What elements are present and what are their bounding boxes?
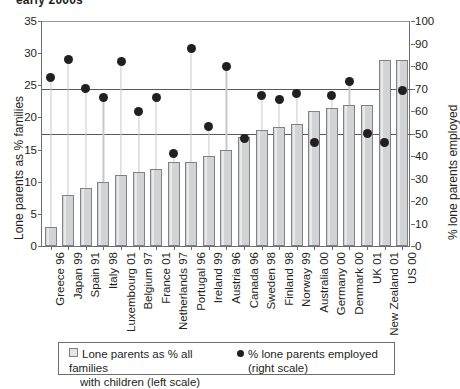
chart-category-column[interactable] <box>42 21 60 246</box>
bar[interactable] <box>273 127 285 246</box>
y-axis-right-tick-label: 0 <box>415 240 421 252</box>
data-point-marker[interactable] <box>169 149 178 158</box>
y-axis-right-tick-mark <box>411 156 415 157</box>
bar[interactable] <box>97 182 109 246</box>
bar[interactable] <box>62 195 74 246</box>
y-axis-right-tick-mark <box>411 201 415 202</box>
x-axis-tick-label: US 00 <box>406 252 418 284</box>
chart-category-column[interactable] <box>288 21 306 246</box>
legend-bar-label-line1: Lone parents as % all families <box>69 348 193 374</box>
data-point-marker[interactable] <box>81 84 90 93</box>
chart-category-column[interactable] <box>393 21 411 246</box>
x-axis-tick-label: Germany 00 <box>335 252 347 315</box>
chart-category-column[interactable] <box>77 21 95 246</box>
data-point-marker[interactable] <box>117 57 126 66</box>
x-axis-tick-label: Denmark 00 <box>353 252 365 315</box>
data-point-marker[interactable] <box>327 91 336 100</box>
y-axis-left-tick-label: 10 <box>24 176 37 188</box>
x-axis-tick-label: UK 01 <box>371 252 383 284</box>
chart-category-column[interactable] <box>235 21 253 246</box>
x-axis-tick-label: Finland 98 <box>283 252 295 306</box>
chart-legend: Lone parents as % all families with chil… <box>58 342 395 375</box>
x-axis-tick-label: Ireland 99 <box>212 252 224 303</box>
chart-category-column[interactable] <box>306 21 324 246</box>
data-point-marker[interactable] <box>187 44 196 53</box>
chart-category-column[interactable] <box>253 21 271 246</box>
y-axis-left-title: Lone parents as % families <box>12 96 26 240</box>
bar[interactable] <box>361 105 373 246</box>
y-axis-right-tick-label: 40 <box>415 150 428 162</box>
chart-category-column[interactable] <box>341 21 359 246</box>
bar[interactable] <box>256 130 268 246</box>
chart-category-column[interactable] <box>183 21 201 246</box>
bar[interactable] <box>45 227 57 246</box>
data-point-marker[interactable] <box>292 89 301 98</box>
chart-title: early 2000s <box>16 0 83 7</box>
bar[interactable] <box>326 108 338 246</box>
bar[interactable] <box>80 188 92 246</box>
y-axis-right-tick-label: 100 <box>415 15 434 27</box>
data-point-marker[interactable] <box>152 93 161 102</box>
chart-category-column[interactable] <box>323 21 341 246</box>
x-axis-tick-label: France 01 <box>160 252 172 304</box>
data-point-marker[interactable] <box>398 86 407 95</box>
data-point-marker[interactable] <box>257 91 266 100</box>
data-point-marker[interactable] <box>99 93 108 102</box>
bar[interactable] <box>291 124 303 246</box>
bar[interactable] <box>238 137 250 246</box>
data-point-marker[interactable] <box>64 55 73 64</box>
legend-item-bars: Lone parents as % all families with chil… <box>69 347 229 389</box>
data-point-marker[interactable] <box>46 73 55 82</box>
data-point-marker[interactable] <box>345 77 354 86</box>
bar[interactable] <box>379 60 391 246</box>
x-axis-tick-label: Australia 00 <box>318 252 330 313</box>
chart-category-column[interactable] <box>200 21 218 246</box>
y-axis-right-title: % lone parents employed <box>446 105 460 240</box>
data-point-marker[interactable] <box>222 62 231 71</box>
data-point-marker[interactable] <box>310 138 319 147</box>
chart-category-column[interactable] <box>95 21 113 246</box>
x-axis-tick-label: Japan 99 <box>72 252 84 299</box>
chart-category-column[interactable] <box>147 21 165 246</box>
data-point-marker[interactable] <box>240 134 249 143</box>
y-axis-right-tick-mark <box>411 44 415 45</box>
y-axis-right-tick-mark <box>411 246 415 247</box>
y-axis-right-tick-mark <box>411 179 415 180</box>
bar[interactable] <box>185 162 197 246</box>
y-axis-right-tick-mark <box>411 224 415 225</box>
bar[interactable] <box>220 150 232 246</box>
bar[interactable] <box>203 156 215 246</box>
y-axis-left-tick-label: 15 <box>24 144 37 156</box>
data-point-marker[interactable] <box>275 95 284 104</box>
x-axis-tick-label: Portugal 96 <box>195 252 207 311</box>
plot-area: 051015202530350102030405060708090100 <box>41 21 410 246</box>
bar[interactable] <box>133 172 145 246</box>
chart-category-column[interactable] <box>130 21 148 246</box>
chart-category-column[interactable] <box>165 21 183 246</box>
x-axis-tick-label: Belgium 97 <box>142 252 154 310</box>
legend-bar-label-line2: with children (left scale) <box>80 375 229 389</box>
data-point-marker[interactable] <box>134 107 143 116</box>
bar[interactable] <box>150 169 162 246</box>
data-point-marker[interactable] <box>204 122 213 131</box>
bar[interactable] <box>115 175 127 246</box>
chart-category-column[interactable] <box>358 21 376 246</box>
data-point-marker[interactable] <box>363 129 372 138</box>
chart-category-column[interactable] <box>112 21 130 246</box>
y-axis-left-tick-label: 25 <box>24 79 37 91</box>
x-axis-tick-label: Canada 96 <box>248 252 260 308</box>
x-axis-tick-label: Sweden 98 <box>265 252 277 310</box>
x-axis-tick-label: Netherlands 97 <box>177 252 189 330</box>
chart-category-column[interactable] <box>376 21 394 246</box>
data-point-stem <box>50 77 51 246</box>
bar[interactable] <box>343 105 355 246</box>
chart-category-column[interactable] <box>60 21 78 246</box>
chart-category-column[interactable] <box>270 21 288 246</box>
bar[interactable] <box>168 162 180 246</box>
x-axis-tick-label: New Zealand 01 <box>388 252 400 336</box>
bar[interactable] <box>308 111 320 246</box>
chart-category-column[interactable] <box>218 21 236 246</box>
y-axis-right-tick-mark <box>411 134 415 135</box>
x-axis-tick-label: Greece 96 <box>54 252 66 306</box>
